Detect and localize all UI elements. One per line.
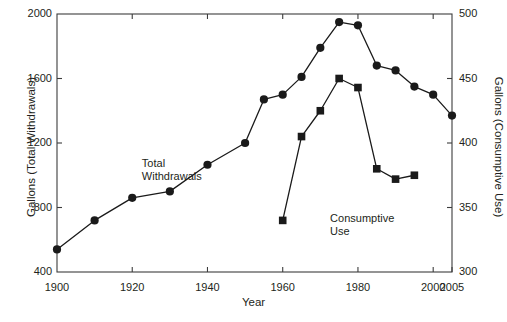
x-axis-title: Year xyxy=(0,296,507,308)
series-annotation-consumptive-use: Consumptive Use xyxy=(330,212,394,238)
y-tick-label-left: 1600 xyxy=(0,72,52,84)
y-tick-label-right: 450 xyxy=(459,72,477,84)
data-point-marker xyxy=(354,84,362,92)
data-point-marker xyxy=(297,73,305,81)
y-tick-label-left: 1200 xyxy=(0,136,52,148)
y-axis-right-title: Gallons (Consumptive Use) xyxy=(493,57,505,237)
data-point-marker xyxy=(448,111,456,119)
data-point-marker xyxy=(260,95,268,103)
data-point-marker xyxy=(391,66,399,74)
data-point-marker xyxy=(429,91,437,99)
data-point-marker xyxy=(53,245,61,253)
data-point-marker xyxy=(279,217,287,225)
data-point-marker xyxy=(91,216,99,224)
x-tick-label: 2005 xyxy=(412,281,492,293)
x-tick-label: 1940 xyxy=(167,281,247,293)
annotation-line-2: Withdrawals xyxy=(142,170,202,183)
y-tick-label-left: 400 xyxy=(0,265,52,277)
data-point-marker xyxy=(335,18,343,26)
y-tick-label-right: 300 xyxy=(459,265,477,277)
series-annotation-total-withdrawals: Total Withdrawals xyxy=(142,157,202,183)
y-tick-label-right: 500 xyxy=(459,7,477,19)
x-tick-label: 1920 xyxy=(92,281,172,293)
data-point-marker xyxy=(298,133,306,141)
data-point-marker xyxy=(166,187,174,195)
data-point-marker xyxy=(279,91,287,99)
chart-figure: Gallons (Total Withdrawals) Gallons (Con… xyxy=(0,0,507,322)
data-point-marker xyxy=(392,175,400,183)
data-series-group xyxy=(53,18,456,254)
annotation-line-1: Total xyxy=(142,157,202,170)
data-point-marker xyxy=(354,21,362,29)
data-point-marker xyxy=(203,161,211,169)
data-point-marker xyxy=(317,107,325,115)
y-tick-label-right: 350 xyxy=(459,201,477,213)
annotation-line-2: Use xyxy=(330,225,394,238)
x-tick-label: 1980 xyxy=(318,281,398,293)
data-point-marker xyxy=(316,44,324,52)
data-point-marker xyxy=(335,75,343,83)
series-total-withdrawals xyxy=(53,18,456,254)
data-point-marker xyxy=(373,165,381,173)
data-point-marker xyxy=(410,82,418,90)
x-tick-label: 1960 xyxy=(243,281,323,293)
series-consumptive-use xyxy=(279,75,418,225)
y-tick-label-left: 800 xyxy=(0,201,52,213)
data-point-marker xyxy=(373,62,381,70)
data-point-marker xyxy=(241,139,249,147)
data-point-marker xyxy=(128,194,136,202)
y-tick-label-left: 2000 xyxy=(0,7,52,19)
y-tick-label-right: 400 xyxy=(459,136,477,148)
annotation-line-1: Consumptive xyxy=(330,212,394,225)
data-point-marker xyxy=(411,171,419,179)
chart-plot-area xyxy=(0,0,507,322)
x-tick-label: 1900 xyxy=(17,281,97,293)
